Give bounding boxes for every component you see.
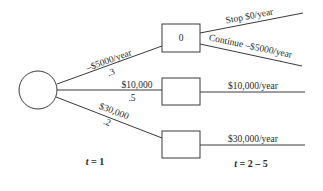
branch-mid-value-label: $10,000	[122, 80, 153, 90]
time-label-t1: t = 1	[86, 156, 104, 167]
branch-mid-probability: .5	[128, 93, 135, 103]
outcome-stop-label: Stop $0/year	[225, 6, 275, 25]
decision-tree-diagram: 0 –$5000/year .3 $10,000 .5 $30,000 .2 S…	[0, 0, 323, 191]
branch-low-probability: .3	[106, 66, 116, 78]
decision-box-high	[162, 131, 200, 158]
chance-node-circle	[19, 71, 57, 109]
branch-high-probability: .2	[102, 116, 112, 128]
time-label-t2-5: t = 2 – 5	[234, 158, 267, 169]
outcome-mid-label: $10,000/year	[228, 81, 279, 91]
decision-box-low-value: 0	[179, 33, 184, 43]
outcome-high-label: $30,000/year	[228, 134, 279, 144]
branch-high-value-label: $30,000	[98, 101, 131, 121]
decision-box-mid	[162, 78, 200, 105]
outcome-continue-label: Continue –$5000/year	[208, 32, 294, 60]
